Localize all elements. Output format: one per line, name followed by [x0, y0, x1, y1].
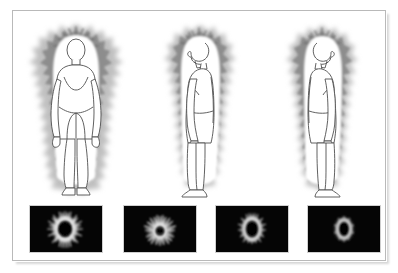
kirlian-panel-dense-rays: Corona with dense long rays [29, 205, 103, 253]
kirlian-panel-oval-short-rays: Oval corona with short rays [215, 205, 289, 253]
kirlian-panel-small-corona: Small corona with scattered bright rays [123, 205, 197, 253]
figure-frame: Human aura fields and Kirlian fingertip … [12, 10, 386, 261]
aura-figure-profile-right: Side profile figure with aura, facing ri… [263, 15, 381, 200]
figure-root: Human aura fields and Kirlian fingertip … [0, 0, 398, 273]
aura-figure-profile-left: Side profile figure with aura, facing le… [141, 15, 259, 200]
kirlian-row-caption: Kirlian corona discharge photographs [13, 205, 14, 206]
aura-figure-front: Front view figure with aura [17, 15, 135, 200]
kirlian-panel-smooth-oval: Smooth oval corona with minimal rays [307, 205, 381, 253]
figure-title: Human aura fields and Kirlian fingertip … [13, 11, 14, 12]
kirlian-panels-row: Kirlian corona discharge photographs Cor… [13, 205, 385, 259]
aura-row-caption: Whole-body aura emanation drawings [13, 15, 14, 16]
aura-figures-row: Whole-body aura emanation drawings Front… [13, 15, 385, 200]
